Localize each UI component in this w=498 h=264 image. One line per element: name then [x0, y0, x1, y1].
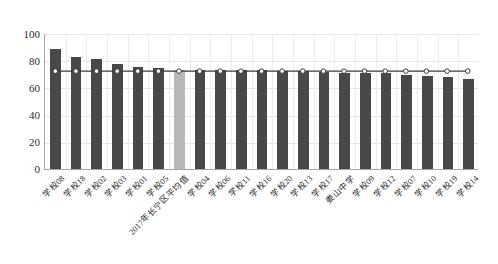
x-tick-label-学校20: 学校20	[269, 174, 294, 199]
x-tick-label-学校07: 学校07	[393, 174, 418, 199]
bar-学校11[interactable]	[236, 70, 247, 169]
bar-学校04[interactable]	[195, 70, 206, 169]
bar-chart: 100 80 60 40 20 0 学校08学校18学校02学校03学校01学校…	[0, 0, 498, 264]
x-tick-label-学校03: 学校03	[104, 174, 129, 199]
x-tick-label-学校19: 学校19	[434, 174, 459, 199]
bar-学校03[interactable]	[112, 64, 123, 169]
y-tick-label-20: 20	[4, 137, 40, 148]
bar-2017年长宁区平均值[interactable]	[174, 70, 185, 169]
x-tick-label-学校01: 学校01	[124, 174, 149, 199]
x-tick-label-学校16: 学校16	[248, 174, 273, 199]
bar-学校12[interactable]	[381, 73, 392, 169]
y-tick-label-40: 40	[4, 110, 40, 121]
bar-学校05[interactable]	[153, 68, 164, 169]
bar-学校09[interactable]	[360, 73, 371, 169]
y-tick-label-100: 100	[4, 29, 40, 40]
bar-学校19[interactable]	[443, 77, 454, 169]
x-tick-label-学校10: 学校10	[414, 174, 439, 199]
bar-学校06[interactable]	[215, 70, 226, 169]
bar-学校14[interactable]	[463, 79, 474, 169]
bar-学校20[interactable]	[277, 71, 288, 169]
x-tick-label-学校09: 学校09	[352, 174, 377, 199]
bar-学校17[interactable]	[319, 72, 330, 169]
bar-学校13[interactable]	[298, 71, 309, 169]
x-tick-label-学校14: 学校14	[455, 174, 480, 199]
bar-学校08[interactable]	[50, 49, 61, 169]
x-tick-label-学校11: 学校11	[228, 174, 253, 199]
y-tick-label-80: 80	[4, 56, 40, 67]
plot-area	[44, 34, 478, 170]
bar-学校16[interactable]	[257, 70, 268, 169]
bars-layer	[45, 34, 478, 169]
y-tick-label-60: 60	[4, 83, 40, 94]
x-tick-label-学校04: 学校04	[186, 174, 211, 199]
y-tick-label-0: 0	[4, 164, 40, 175]
x-tick-label-学校13: 学校13	[290, 174, 315, 199]
bar-学校10[interactable]	[422, 76, 433, 169]
bar-娄山中学[interactable]	[339, 73, 350, 169]
x-tick-label-学校12: 学校12	[372, 174, 397, 199]
bar-学校07[interactable]	[401, 75, 412, 169]
x-tick-label-学校02: 学校02	[83, 174, 108, 199]
bar-学校18[interactable]	[71, 57, 82, 169]
x-tick-label-学校18: 学校18	[62, 174, 87, 199]
x-tick-label-学校06: 学校06	[207, 174, 232, 199]
x-axis-labels: 学校08学校18学校02学校03学校01学校052017年长宁区平均值学校04学…	[44, 170, 478, 264]
bar-学校01[interactable]	[133, 67, 144, 169]
x-tick-label-学校08: 学校08	[42, 174, 67, 199]
bar-学校02[interactable]	[91, 59, 102, 169]
